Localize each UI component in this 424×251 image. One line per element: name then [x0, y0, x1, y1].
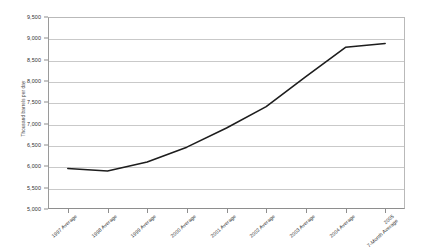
- x-tick-mark: [346, 209, 347, 213]
- x-tick-mark: [306, 209, 307, 213]
- y-tick-label: 6,000: [27, 163, 41, 169]
- y-tick-label: 9,000: [27, 35, 41, 41]
- y-axis: 5,0005,5006,0006,5007,0007,5008,0008,500…: [0, 17, 48, 209]
- y-tick-label: 6,500: [27, 142, 41, 148]
- y-tick-label: 8,500: [27, 57, 41, 63]
- y-tick-label: 7,500: [27, 99, 41, 105]
- x-tick-mark: [227, 209, 228, 213]
- line-chart: Thousand barrels per day 5,0005,5006,000…: [0, 0, 424, 251]
- y-tick-label: 9,500: [27, 14, 41, 20]
- x-tick-mark: [385, 209, 386, 213]
- x-tick-mark: [266, 209, 267, 213]
- y-tick-label: 5,000: [27, 206, 41, 212]
- x-tick-mark: [108, 209, 109, 213]
- x-tick-label-line: 1997 Average: [0, 213, 78, 251]
- series-polyline: [68, 43, 385, 171]
- y-tick-label: 7,000: [27, 121, 41, 127]
- x-tick-label: 1997 Average: [0, 213, 78, 251]
- x-tick-mark: [68, 209, 69, 213]
- x-tick-mark: [187, 209, 188, 213]
- y-tick-label: 8,000: [27, 78, 41, 84]
- y-tick-label: 5,500: [27, 185, 41, 191]
- x-tick-mark: [147, 209, 148, 213]
- data-series-line: [48, 17, 405, 209]
